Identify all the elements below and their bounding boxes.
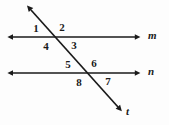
line-label-n: n	[148, 66, 154, 77]
geometry-figure: m n t 1 2 3 4 5 6 7 8	[0, 0, 169, 125]
angle-label-6: 6	[88, 58, 100, 69]
angle-label-1: 1	[30, 23, 42, 34]
angle-label-3: 3	[68, 40, 80, 51]
angle-label-4: 4	[40, 41, 52, 52]
angle-label-5: 5	[62, 59, 74, 70]
line-label-m: m	[148, 30, 157, 41]
line-t-transversal	[31, 10, 118, 107]
geometry-canvas	[0, 0, 169, 125]
angle-label-8: 8	[73, 77, 85, 88]
line-label-t: t	[126, 106, 129, 117]
angle-label-2: 2	[56, 22, 68, 33]
angle-label-7: 7	[102, 76, 114, 87]
